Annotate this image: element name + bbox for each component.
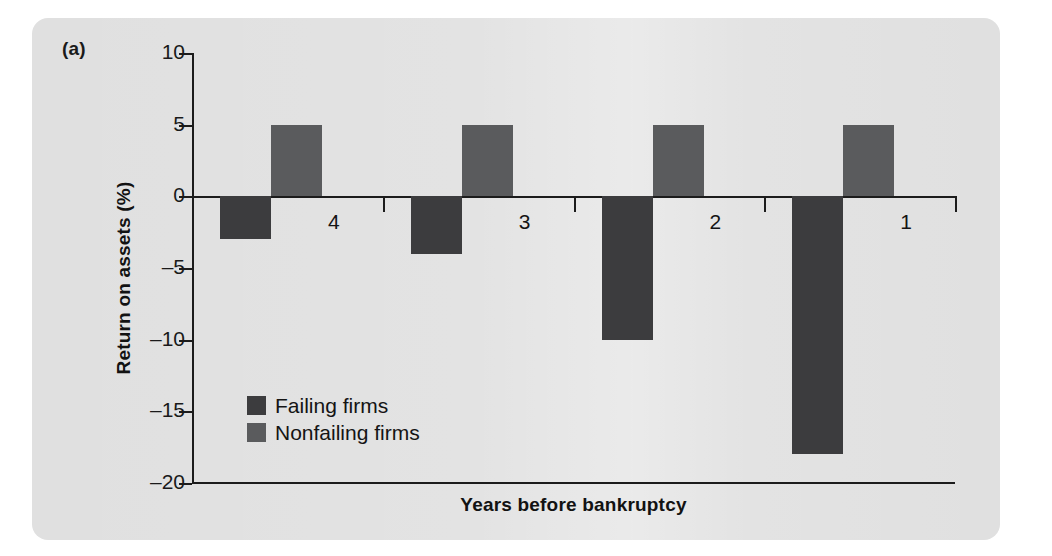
legend-swatch <box>247 396 266 415</box>
y-tick-label: –10 <box>150 328 185 350</box>
legend-item: Failing firms <box>247 392 420 419</box>
bar-nonfailing-firms-year-1 <box>843 125 894 197</box>
bar-nonfailing-firms-year-4 <box>271 125 322 197</box>
x-group-label-2: 2 <box>710 211 722 233</box>
bar-failing-firms-year-1 <box>792 196 843 454</box>
panel-label: (a) <box>62 38 86 60</box>
y-tick-label: 10 <box>162 41 185 63</box>
x-group-label-4: 4 <box>328 211 340 233</box>
x-tick-mark <box>955 196 957 212</box>
y-tick-label: –5 <box>162 256 185 278</box>
legend-swatch <box>247 423 266 442</box>
bar-failing-firms-year-3 <box>411 196 462 253</box>
bar-failing-firms-year-2 <box>602 196 653 339</box>
bar-nonfailing-firms-year-2 <box>653 125 704 197</box>
chart-legend: Failing firmsNonfailing firms <box>247 392 420 446</box>
bar-failing-firms-year-4 <box>220 196 271 239</box>
bar-nonfailing-firms-year-3 <box>462 125 513 197</box>
x-group-label-1: 1 <box>900 211 912 233</box>
x-axis-title: Years before bankruptcy <box>192 494 955 516</box>
legend-label: Nonfailing firms <box>275 422 420 444</box>
figure-root: (a) Return on assets (%) 1050–5–10–15–20… <box>0 0 1052 556</box>
x-group-label-3: 3 <box>519 211 531 233</box>
y-tick-label: 0 <box>173 184 185 206</box>
y-tick-label: –15 <box>150 399 185 421</box>
y-axis-title: Return on assets (%) <box>113 182 135 375</box>
y-tick-label: 5 <box>173 113 185 135</box>
legend-item: Nonfailing firms <box>247 419 420 446</box>
y-tick-label: –20 <box>150 471 185 493</box>
legend-label: Failing firms <box>275 395 388 417</box>
